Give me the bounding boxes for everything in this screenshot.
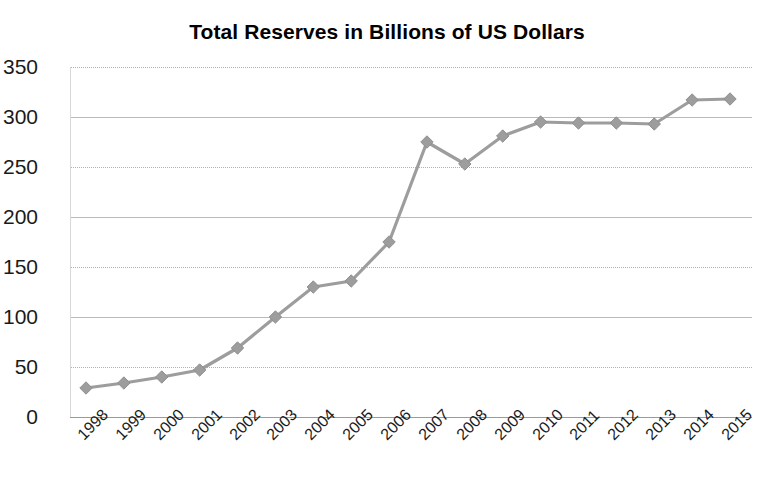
y-axis-tick-label: 50	[0, 355, 38, 379]
chart-container: Total Reserves in Billions of US Dollars…	[0, 0, 774, 504]
data-point-marker	[118, 377, 130, 389]
y-axis-tick-label: 100	[0, 305, 38, 329]
y-axis-tick-label: 200	[0, 205, 38, 229]
y-axis-tick-label: 150	[0, 255, 38, 279]
y-axis-tick-label: 300	[0, 105, 38, 129]
y-axis-tick-label: 0	[0, 405, 38, 429]
data-point-marker	[534, 116, 546, 128]
chart-title: Total Reserves in Billions of US Dollars	[0, 20, 774, 44]
y-axis-tick-label: 250	[0, 155, 38, 179]
series-line	[86, 99, 730, 388]
data-series-group	[70, 67, 752, 417]
y-axis-tick-label: 350	[0, 55, 38, 79]
data-point-marker	[724, 93, 736, 105]
data-point-marker	[572, 117, 584, 129]
data-point-marker	[610, 117, 622, 129]
data-point-marker	[156, 371, 168, 383]
plot-area: 050100150200250300350 199819992000200120…	[70, 67, 752, 417]
data-point-marker	[80, 382, 92, 394]
